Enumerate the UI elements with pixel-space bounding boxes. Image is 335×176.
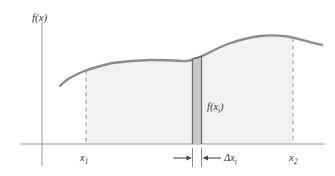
x1-tick-label: x1 (79, 152, 88, 166)
highlighted-strip (192, 59, 202, 144)
strip-width-label-subscript: i (235, 158, 237, 166)
figure-container: f(x) x1 x2 f(xi) Δxi (0, 0, 335, 176)
y-axis-label-text: f(x) (32, 11, 48, 24)
y-axis-label: f(x) (32, 11, 48, 24)
x2-tick-label: x2 (288, 152, 298, 166)
dimension-arrow-right-head (203, 156, 209, 161)
strip-width-label-base: Δx (223, 152, 235, 163)
x2-tick-label-subscript: 2 (294, 158, 298, 166)
strip-height-label-base: f(x (207, 101, 218, 113)
x1-tick-label-subscript: 1 (85, 158, 89, 166)
shaded-area-under-curve (86, 35, 293, 144)
dimension-arrow-left-head (187, 156, 193, 161)
strip-height-label-end: ) (219, 101, 224, 113)
strip-width-label: Δxi (223, 152, 237, 166)
area-under-curve-diagram: f(x) x1 x2 f(xi) Δxi (0, 0, 335, 176)
